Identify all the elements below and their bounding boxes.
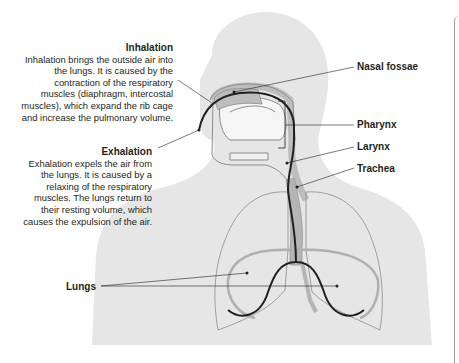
inhalation-annotation: Inhalation Inhalation brings the outside…: [20, 42, 173, 123]
label-larynx: Larynx: [357, 141, 390, 152]
label-pharynx: Pharynx: [357, 119, 396, 130]
panel-border: [454, 16, 459, 363]
exhalation-title: Exhalation: [22, 146, 152, 158]
label-nasal-fossae: Nasal fossae: [357, 61, 418, 72]
inhalation-body: Inhalation brings the outside air into t…: [21, 54, 173, 123]
label-trachea: Trachea: [357, 163, 395, 174]
label-lungs: Lungs: [66, 281, 96, 292]
inhalation-title: Inhalation: [20, 42, 173, 54]
exhalation-annotation: Exhalation Exhalation expels the air fro…: [22, 146, 152, 227]
exhalation-body: Exhalation expels the air from the lungs…: [23, 158, 152, 227]
